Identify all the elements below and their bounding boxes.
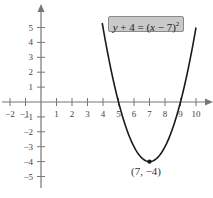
y-tick-label: 1 [29,82,34,92]
x-tick-label: 4 [101,109,106,119]
y-tick-label: 4 [29,37,34,47]
y-tick-label: 2 [29,67,34,77]
x-tick-label: 10 [192,109,202,119]
x-tick-label: 6 [132,109,137,119]
vertex-label: (7, −4) [131,165,161,177]
equation-lhs: + 4 = ( [118,21,151,33]
x-tick-label: 7 [147,109,152,119]
y-tick-label: −1 [23,112,33,122]
equation-rhs: − 7) [155,21,176,33]
y-tick-label: 5 [29,23,34,33]
y-tick-label: −4 [23,157,33,167]
parabola-curve [102,23,196,162]
y-tick-label: 3 [29,52,34,62]
equation-exponent: 2 [176,20,180,28]
y-tick-label: −3 [23,142,33,152]
x-axis-arrow-icon [205,99,213,106]
y-tick-label: −2 [23,127,33,137]
x-tick-label: 2 [70,109,75,119]
x-tick-label: 1 [54,109,59,119]
y-axis-arrow-icon [38,4,45,12]
vertex-point [147,159,151,163]
x-tick-label: 3 [85,109,90,119]
x-tick-label: −2 [5,109,15,119]
equation-label: y + 4 = (x − 7)2 [108,16,184,32]
x-tick-label: 8 [163,109,168,119]
y-tick-label: −5 [23,172,33,182]
